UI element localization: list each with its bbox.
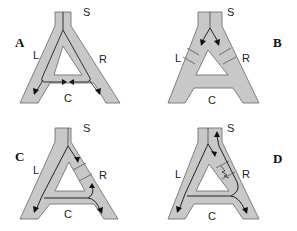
label-l: L <box>175 52 181 64</box>
a-frame-diagram <box>0 116 148 231</box>
label-c: C <box>64 92 72 104</box>
label-l: L <box>175 168 181 180</box>
label-r: R <box>99 169 107 181</box>
label-s: S <box>227 122 234 134</box>
a-frame-diagram <box>149 0 297 115</box>
label-r: R <box>242 52 250 64</box>
panel-letter: B <box>273 35 282 51</box>
panel-d: D S L R C <box>149 116 297 231</box>
label-c: C <box>208 210 216 222</box>
panel-letter: D <box>273 151 282 167</box>
label-c: C <box>64 208 72 220</box>
label-s: S <box>83 122 90 134</box>
panel-b: B S L R C <box>149 0 297 115</box>
panel-a: A S L R C <box>0 0 148 115</box>
a-frame-diagram <box>149 116 297 231</box>
a-frame-diagram <box>0 0 148 115</box>
label-s: S <box>227 6 234 18</box>
label-l: L <box>33 49 39 61</box>
label-l: L <box>33 164 39 176</box>
label-s: S <box>83 6 90 18</box>
label-c: C <box>208 94 216 106</box>
panel-letter: A <box>15 35 24 51</box>
label-r: R <box>242 168 250 180</box>
label-r: R <box>99 53 107 65</box>
panel-letter: C <box>15 149 24 165</box>
panel-c: C S L R C <box>0 116 148 231</box>
